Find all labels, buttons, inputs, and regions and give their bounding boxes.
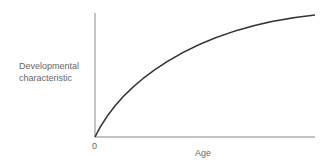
origin-label: 0 (92, 141, 97, 151)
y-axis-label-line2: characteristic (19, 72, 79, 84)
x-axis-label: Age (195, 148, 211, 158)
y-axis-label: Developmental characteristic (19, 60, 79, 84)
y-axis-label-line1: Developmental (19, 60, 79, 72)
growth-curve (95, 15, 315, 137)
